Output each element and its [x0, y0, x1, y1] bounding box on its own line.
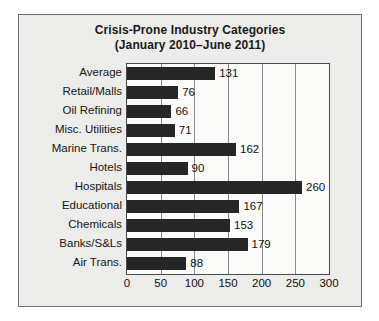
bar-row: 131 — [127, 65, 329, 83]
bar — [127, 86, 178, 99]
axis-tick-label: 50 — [154, 277, 167, 289]
category-label: Retail/Malls — [22, 84, 122, 98]
bar-row: 71 — [127, 122, 329, 140]
category-label: Hospitals — [22, 179, 122, 193]
bar — [127, 67, 215, 80]
bar-row: 153 — [127, 217, 329, 235]
bar — [127, 143, 236, 156]
chart-frame: Crisis-Prone Industry Categories (Januar… — [18, 14, 362, 307]
category-label: Oil Refining — [22, 103, 122, 117]
bar — [127, 124, 175, 137]
category-label: Air Trans. — [22, 255, 122, 269]
bar-value-label: 76 — [182, 85, 195, 99]
category-label: Banks/S&Ls — [22, 236, 122, 250]
bar-row: 167 — [127, 198, 329, 216]
category-label: Chemicals — [22, 217, 122, 231]
axis-tick-label: 100 — [185, 277, 204, 289]
bar-row: 76 — [127, 84, 329, 102]
bar-row: 260 — [127, 179, 329, 197]
bar — [127, 181, 302, 194]
bar-value-label: 88 — [190, 256, 203, 270]
axis-tick-label: 150 — [218, 277, 237, 289]
bar — [127, 200, 239, 213]
bar-value-label: 162 — [240, 142, 259, 156]
value-axis-tick-labels: 050100150200250300 — [127, 277, 329, 293]
axis-tick-label: 0 — [124, 277, 130, 289]
bar — [127, 105, 171, 118]
axis-tick-label: 300 — [319, 277, 338, 289]
page-title: Crisis-Prone Industry Categories — [19, 23, 361, 38]
bar — [127, 162, 188, 175]
bar-row: 66 — [127, 103, 329, 121]
category-label: Marine Trans. — [22, 141, 122, 155]
bar-row: 162 — [127, 141, 329, 159]
bar-value-label: 260 — [306, 180, 325, 194]
bar-row: 179 — [127, 236, 329, 254]
category-label: Misc. Utilities — [22, 122, 122, 136]
plot-area: 1317666711629026016715317988 — [126, 63, 330, 275]
bar-value-label: 90 — [192, 161, 205, 175]
bar-row: 88 — [127, 255, 329, 273]
bar-value-label: 71 — [179, 123, 192, 137]
chart-title-block: Crisis-Prone Industry Categories (Januar… — [19, 23, 361, 53]
chart-subtitle: (January 2010–June 2011) — [19, 38, 361, 53]
bar-row: 90 — [127, 160, 329, 178]
category-axis-labels: AverageRetail/MallsOil RefiningMisc. Uti… — [19, 63, 122, 273]
bar-value-label: 131 — [219, 66, 238, 80]
bar-value-label: 153 — [234, 218, 253, 232]
bar — [127, 257, 186, 270]
bar — [127, 219, 230, 232]
axis-tick-label: 250 — [286, 277, 305, 289]
bar-value-label: 179 — [252, 237, 271, 251]
category-label: Hotels — [22, 160, 122, 174]
axis-tick-label: 200 — [252, 277, 271, 289]
category-label: Average — [22, 65, 122, 79]
bar-value-label: 66 — [175, 104, 188, 118]
category-label: Educational — [22, 198, 122, 212]
bar-value-label: 167 — [243, 199, 262, 213]
bar — [127, 238, 248, 251]
